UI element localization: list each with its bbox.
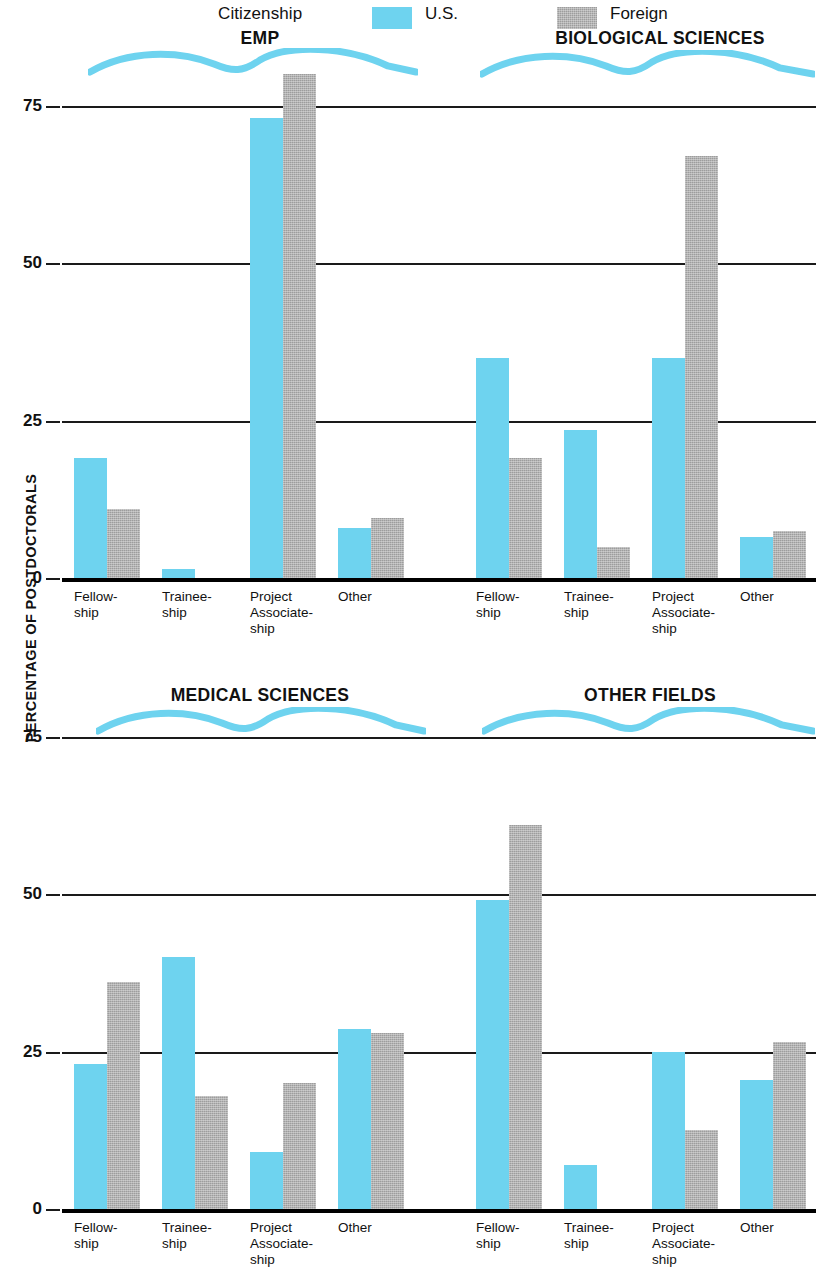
x-category-label: Fellow- ship <box>74 1220 162 1252</box>
bar-us <box>476 900 509 1209</box>
y-tick-mark <box>46 894 60 896</box>
x-category-label: Trainee- ship <box>564 1220 652 1252</box>
y-tick-label: 75 <box>4 728 42 745</box>
x-category-label: Fellow- ship <box>476 1220 564 1252</box>
bar-foreign <box>371 1033 404 1209</box>
bar-us <box>74 1064 107 1209</box>
x-category-label: Other <box>338 1220 426 1236</box>
y-tick-mark <box>46 1209 60 1211</box>
bar-foreign <box>107 982 140 1209</box>
x-category-label: Other <box>740 1220 820 1236</box>
bar-foreign <box>773 1042 806 1209</box>
x-category-label: Project Associate- ship <box>652 1220 740 1268</box>
bar-foreign <box>283 1083 316 1209</box>
bar-us <box>162 957 195 1209</box>
bar-us <box>564 1165 597 1209</box>
y-tick-mark <box>46 1052 60 1054</box>
bar-us <box>652 1052 685 1210</box>
y-tick-label: 25 <box>4 1043 42 1060</box>
bar-foreign <box>509 825 542 1209</box>
gridline <box>62 737 816 739</box>
x-axis-line <box>62 1209 816 1213</box>
x-category-label: Project Associate- ship <box>250 1220 338 1268</box>
bar-us <box>740 1080 773 1209</box>
bar-foreign <box>195 1096 228 1209</box>
bar-us <box>338 1029 371 1209</box>
y-tick-label: 0 <box>4 1200 42 1217</box>
bar-us <box>250 1152 283 1209</box>
chart-bottom-row: 7550250Fellow- shipTrainee- shipProject … <box>0 0 820 1277</box>
bar-foreign <box>685 1130 718 1209</box>
gridline <box>62 894 816 896</box>
x-category-label: Trainee- ship <box>162 1220 250 1252</box>
y-tick-mark <box>46 737 60 739</box>
y-tick-label: 50 <box>4 885 42 902</box>
